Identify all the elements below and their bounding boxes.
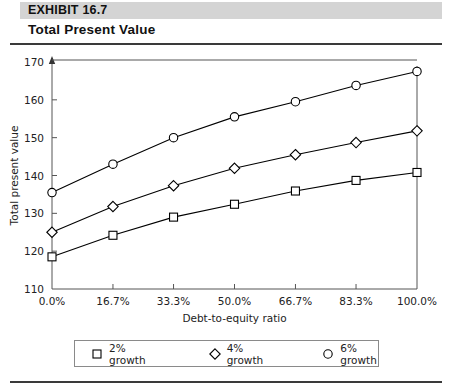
chart-series — [47, 67, 422, 261]
series-line — [52, 172, 417, 256]
diamond-marker — [108, 201, 118, 211]
x-tick-label: 50.0% — [218, 295, 251, 307]
series-square — [48, 168, 421, 260]
circle-marker — [291, 98, 299, 106]
y-axis-title: Total present value — [8, 126, 20, 227]
series-line — [52, 71, 417, 192]
diamond-marker — [168, 181, 178, 191]
x-tick-label: 16.7% — [96, 295, 129, 307]
square-marker — [231, 200, 239, 208]
diamond-marker — [290, 149, 300, 159]
x-tick-label: 33.3% — [157, 295, 190, 307]
diamond-marker — [351, 137, 361, 147]
square-marker — [413, 168, 421, 176]
chart-area: 1101201301401501601700.0%16.7%33.3%50.0%… — [0, 0, 451, 389]
legend-label-1: 4% growth — [227, 342, 265, 366]
x-tick-label: 0.0% — [39, 295, 66, 307]
circle-marker — [109, 160, 117, 168]
x-axis-title: Debt-to-equity ratio — [182, 312, 286, 324]
legend-item-1[interactable]: 4% growth — [209, 342, 265, 366]
series-line — [52, 131, 417, 232]
circle-marker — [324, 349, 332, 357]
square-marker — [170, 213, 178, 221]
legend-item-0[interactable]: 2% growth — [91, 342, 147, 366]
circle-marker — [230, 113, 238, 121]
y-tick-label: 160 — [24, 94, 44, 106]
series-circle — [48, 67, 421, 196]
legend-label-0: 2% growth — [109, 342, 147, 366]
diamond-marker — [47, 227, 57, 237]
chart-legend: 2% growth 4% growth 6% growth — [74, 340, 379, 367]
legend-item-2[interactable]: 6% growth — [322, 342, 378, 366]
square-marker — [93, 350, 101, 358]
x-tick-label: 100.0% — [397, 295, 437, 307]
diamond-marker — [412, 126, 422, 136]
circle-marker — [169, 133, 177, 141]
y-tick-label: 110 — [24, 283, 44, 295]
y-tick-label: 170 — [24, 56, 44, 68]
circle-marker — [352, 81, 360, 89]
square-marker — [352, 176, 360, 184]
y-tick-label: 140 — [24, 170, 44, 182]
diamond-marker — [229, 163, 239, 173]
square-marker — [109, 231, 117, 239]
square-marker — [48, 253, 56, 261]
circle-marker — [413, 67, 421, 75]
square-marker — [291, 187, 299, 195]
circle-icon — [322, 348, 334, 360]
chart-labels: 1101201301401501601700.0%16.7%33.3%50.0%… — [8, 56, 437, 324]
circle-marker — [48, 188, 56, 196]
diamond-icon — [209, 348, 221, 360]
diamond-marker — [209, 348, 219, 358]
square-icon — [91, 348, 103, 360]
y-tick-label: 150 — [24, 132, 44, 144]
y-tick-label: 120 — [24, 245, 44, 257]
series-diamond — [47, 126, 422, 238]
legend-label-2: 6% growth — [340, 342, 378, 366]
line-chart: 1101201301401501601700.0%16.7%33.3%50.0%… — [0, 0, 451, 389]
y-tick-label: 130 — [24, 207, 44, 219]
x-tick-label: 83.3% — [339, 295, 372, 307]
x-tick-label: 66.7% — [279, 295, 312, 307]
